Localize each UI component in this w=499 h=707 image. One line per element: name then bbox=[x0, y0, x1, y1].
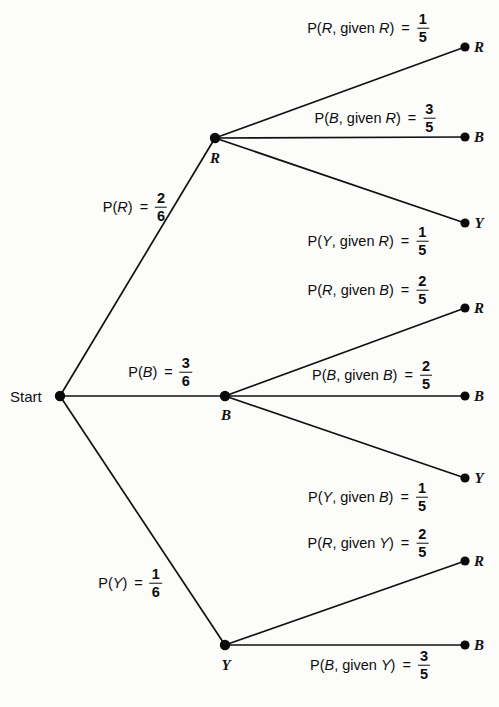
fraction-denominator: 5 bbox=[418, 665, 430, 682]
fraction: 15 bbox=[417, 12, 429, 45]
probability-expression: P(B) bbox=[128, 365, 157, 380]
fraction-denominator: 5 bbox=[423, 118, 435, 135]
edge-probability-lbl-prb: P(R, given B)=25 bbox=[308, 274, 429, 307]
node-label-txt-r1b: B bbox=[474, 130, 484, 145]
fraction: 16 bbox=[150, 567, 162, 600]
tree-node-y1 bbox=[220, 640, 230, 650]
fraction-numerator: 3 bbox=[423, 102, 435, 118]
tree-node-start bbox=[55, 391, 65, 401]
fraction: 35 bbox=[418, 649, 430, 682]
probability-expression: P(Y) bbox=[98, 576, 127, 591]
edge-probability-lbl-pb: P(B)=36 bbox=[128, 356, 192, 389]
fraction-numerator: 1 bbox=[416, 225, 428, 241]
edge-probability-lbl-pry: P(R, given Y)=25 bbox=[308, 527, 429, 560]
fraction: 36 bbox=[180, 356, 192, 389]
tree-node-b1b bbox=[460, 391, 469, 400]
node-label-txt-r1: R bbox=[210, 151, 220, 166]
fraction-denominator: 5 bbox=[416, 241, 428, 258]
edge-probability-lbl-pbr: P(B, given R)=35 bbox=[315, 102, 436, 135]
fraction-numerator: 2 bbox=[155, 191, 167, 207]
node-label-txt-r1y: Y bbox=[474, 216, 483, 231]
tree-node-r1y bbox=[460, 218, 469, 227]
node-label-txt-b1y: Y bbox=[474, 471, 483, 486]
equals-sign: = bbox=[401, 21, 409, 36]
probability-expression: P(Y, given B) bbox=[308, 490, 393, 505]
fraction: 15 bbox=[416, 481, 428, 514]
equals-sign: = bbox=[164, 365, 172, 380]
probability-expression: P(Y, given R) bbox=[308, 234, 394, 249]
start-node-label: Start bbox=[10, 389, 42, 404]
fraction: 25 bbox=[416, 527, 428, 560]
tree-edge-b1-to-b1y bbox=[225, 396, 465, 478]
node-label-txt-y1: Y bbox=[221, 658, 230, 673]
probability-tree-diagram: RBYRBYRBYRB Start P(R)=26P(B)=36P(Y)=16P… bbox=[0, 0, 499, 707]
equals-sign: = bbox=[401, 283, 409, 298]
fraction-denominator: 5 bbox=[417, 28, 429, 45]
fraction-numerator: 1 bbox=[150, 567, 162, 583]
probability-expression: P(R, given R) bbox=[307, 21, 394, 36]
node-label-txt-b1r: R bbox=[474, 301, 484, 316]
equals-sign: = bbox=[400, 490, 408, 505]
fraction-denominator: 5 bbox=[416, 543, 428, 560]
tree-edge-start-to-y1 bbox=[60, 396, 225, 645]
equals-sign: = bbox=[401, 536, 409, 551]
equals-sign: = bbox=[401, 234, 409, 249]
tree-node-r1 bbox=[210, 133, 220, 143]
equals-sign: = bbox=[408, 111, 416, 126]
tree-node-b1y bbox=[460, 473, 469, 482]
fraction-numerator: 3 bbox=[180, 356, 192, 372]
probability-expression: P(B, given R) bbox=[315, 111, 401, 126]
probability-expression: P(R) bbox=[103, 200, 133, 215]
tree-node-b1r bbox=[460, 303, 469, 312]
node-label-txt-b1b: B bbox=[474, 389, 484, 404]
fraction-denominator: 5 bbox=[420, 375, 432, 392]
edge-probability-lbl-pyb: P(Y, given B)=15 bbox=[308, 481, 428, 514]
equals-sign: = bbox=[140, 200, 148, 215]
edge-probability-lbl-pr: P(R)=26 bbox=[103, 191, 167, 224]
fraction: 26 bbox=[155, 191, 167, 224]
fraction-denominator: 5 bbox=[416, 290, 428, 307]
fraction: 25 bbox=[420, 359, 432, 392]
node-label-txt-b1: B bbox=[221, 408, 231, 423]
edge-probability-lbl-py: P(Y)=16 bbox=[98, 567, 162, 600]
probability-expression: P(B, given Y) bbox=[310, 658, 395, 673]
probability-expression: P(R, given B) bbox=[308, 283, 394, 298]
fraction-numerator: 2 bbox=[416, 274, 428, 290]
fraction-numerator: 1 bbox=[417, 12, 429, 28]
tree-edge-r1-to-r1y bbox=[215, 138, 465, 223]
fraction: 15 bbox=[416, 225, 428, 258]
tree-node-y1r bbox=[460, 556, 469, 565]
fraction-denominator: 6 bbox=[155, 207, 167, 224]
tree-node-r1b bbox=[460, 132, 469, 141]
probability-expression: P(R, given Y) bbox=[308, 536, 394, 551]
fraction-denominator: 6 bbox=[180, 372, 192, 389]
tree-node-y1b bbox=[460, 640, 469, 649]
fraction-numerator: 3 bbox=[418, 649, 430, 665]
tree-node-b1 bbox=[220, 391, 230, 401]
node-label-txt-y1r: R bbox=[474, 554, 484, 569]
equals-sign: = bbox=[402, 658, 410, 673]
fraction: 25 bbox=[416, 274, 428, 307]
node-label-txt-r1r: R bbox=[474, 40, 484, 55]
tree-node-r1r bbox=[460, 42, 469, 51]
fraction-numerator: 2 bbox=[416, 527, 428, 543]
fraction-numerator: 1 bbox=[416, 481, 428, 497]
tree-edge-y1-to-y1r bbox=[225, 561, 465, 645]
fraction: 35 bbox=[423, 102, 435, 135]
equals-sign: = bbox=[404, 368, 412, 383]
edge-probability-lbl-pby: P(B, given Y)=35 bbox=[310, 649, 430, 682]
edge-probability-lbl-prr: P(R, given R)=15 bbox=[307, 12, 429, 45]
tree-edge-r1-to-r1b bbox=[215, 137, 465, 138]
fraction-denominator: 5 bbox=[416, 497, 428, 514]
node-label-txt-y1b: B bbox=[474, 638, 484, 653]
fraction-denominator: 6 bbox=[150, 583, 162, 600]
probability-expression: P(B, given B) bbox=[312, 368, 397, 383]
edge-probability-lbl-pyr: P(Y, given R)=15 bbox=[308, 225, 429, 258]
equals-sign: = bbox=[134, 576, 142, 591]
fraction-numerator: 2 bbox=[420, 359, 432, 375]
edge-probability-lbl-pbb: P(B, given B)=25 bbox=[312, 359, 432, 392]
